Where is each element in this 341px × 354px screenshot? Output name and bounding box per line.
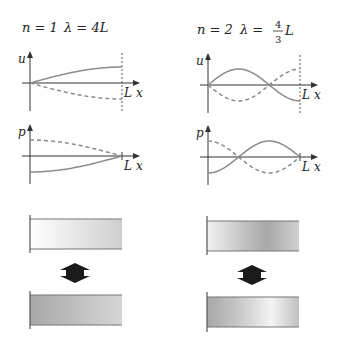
double-arrow-icon [60, 263, 90, 283]
end-label-L: L [301, 160, 310, 174]
y-axis-label: p [18, 125, 26, 139]
standing-wave-diagram: n = 1 λ = 4L n = 2 λ = 4 3 L uxL pxL uxL… [0, 0, 341, 354]
x-axis-label: x [136, 159, 143, 173]
tube-n2-top [207, 216, 299, 255]
wavelength-label-n2-prefix: λ = [239, 22, 263, 37]
wavelength-label-n2-suffix: L [284, 23, 294, 38]
end-label-L: L [123, 86, 132, 100]
y-axis-arrow-icon [205, 125, 211, 132]
tube-body [30, 295, 122, 325]
oscillation-arrow-n2 [237, 265, 267, 285]
tube-n1-bottom [30, 291, 122, 329]
oscillation-arrow-n1 [60, 263, 90, 283]
x-axis-label: x [314, 160, 321, 174]
wavelength-label-n1: λ = 4L [63, 20, 108, 35]
tube-n1-top [30, 215, 122, 253]
displacement-plot-n2: uxL [196, 53, 321, 115]
y-axis-label: u [196, 54, 204, 68]
mode-label-n1: n = 1 [22, 20, 58, 35]
tube-body [207, 297, 299, 327]
end-label-L: L [301, 88, 310, 102]
y-axis-arrow-icon [205, 53, 211, 60]
pressure-plot-n2: pxL [196, 125, 321, 185]
tube-n2-bottom [207, 292, 299, 332]
fraction-numerator: 4 [275, 19, 281, 30]
end-label-L: L [123, 159, 132, 173]
y-axis-label: u [18, 52, 26, 66]
fraction-denominator: 3 [275, 34, 281, 45]
y-axis-label: p [196, 126, 204, 140]
dashed-wave-curve [30, 83, 122, 99]
mode-label-n2: n = 2 [197, 22, 233, 37]
double-arrow-icon [237, 265, 267, 285]
y-axis-arrow-icon [27, 124, 33, 131]
solid-wave-curve [30, 67, 122, 83]
pressure-plot-n1: pxL [18, 124, 143, 184]
y-axis-arrow-icon [27, 51, 33, 58]
dashed-wave-curve [30, 140, 122, 156]
tube-body [30, 219, 122, 249]
displacement-plot-n1: uxL [18, 51, 143, 113]
x-axis-label: x [314, 88, 321, 102]
x-axis-label: x [136, 86, 143, 100]
solid-wave-curve [30, 156, 122, 172]
tube-body [207, 221, 299, 251]
